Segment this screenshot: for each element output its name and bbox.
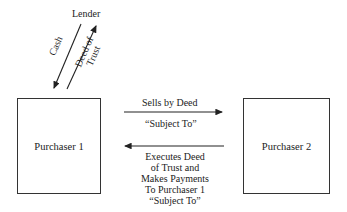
executes-deed-label: Executes Deed of Trust and Makes Payment…: [130, 151, 220, 206]
executes-line-3: Makes Payments: [130, 173, 220, 184]
purchaser-1-label: Purchaser 1: [34, 141, 83, 152]
executes-line-4: To Purchaser 1: [130, 184, 220, 195]
executes-line-1: Executes Deed: [130, 151, 220, 162]
purchaser-1-box: Purchaser 1: [17, 98, 101, 194]
lender-label: Lender: [72, 8, 100, 20]
sells-subject-to-label: “Subject To”: [145, 118, 197, 130]
executes-line-5: “Subject To”: [130, 195, 220, 206]
purchaser-2-label: Purchaser 2: [262, 141, 311, 152]
purchaser-2-box: Purchaser 2: [243, 98, 330, 194]
executes-line-2: of Trust and: [130, 162, 220, 173]
diagram: Lender Cash Deed of Trust Purchaser 1 Pu…: [0, 0, 347, 212]
sells-by-deed-label: Sells by Deed: [142, 97, 198, 109]
